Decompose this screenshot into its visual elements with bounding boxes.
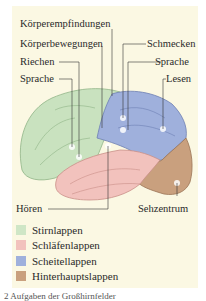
legend-label: Scheitellappen bbox=[32, 255, 97, 267]
label-schmecken: Schmecken bbox=[147, 38, 195, 50]
legend-swatch-green bbox=[16, 225, 26, 235]
label-sehzentrum: Sehzentrum bbox=[138, 203, 188, 215]
legend-item-scheitellappen: Scheitellappen bbox=[16, 253, 118, 269]
legend-label: Schläfenlappen bbox=[32, 239, 100, 251]
label-lesen: Lesen bbox=[166, 73, 191, 85]
figure-caption: 2 Aufgaben der Großhirnfelder bbox=[4, 291, 116, 301]
legend-swatch-pink bbox=[16, 240, 26, 250]
label-koerperbewegungen: Körperbewegungen bbox=[20, 38, 103, 50]
label-sprache-left: Sprache bbox=[20, 73, 54, 85]
legend-item-stirnlappen: Stirnlappen bbox=[16, 222, 118, 238]
legend: Stirnlappen Schläfenlappen Scheitellappe… bbox=[16, 222, 118, 284]
legend-label: Stirnlappen bbox=[32, 224, 83, 236]
legend-swatch-blue bbox=[16, 256, 26, 266]
label-koerperempfindungen: Körperempfindungen bbox=[20, 18, 110, 30]
label-hoeren: Hören bbox=[16, 203, 42, 215]
legend-swatch-brown bbox=[16, 271, 26, 281]
label-sprache-right: Sprache bbox=[155, 56, 189, 68]
legend-label: Hinterhauptslappen bbox=[32, 270, 118, 282]
label-riechen: Riechen bbox=[20, 56, 54, 68]
legend-item-hinterhauptslappen: Hinterhauptslappen bbox=[16, 269, 118, 285]
legend-item-schlaefenlappen: Schläfenlappen bbox=[16, 238, 118, 254]
